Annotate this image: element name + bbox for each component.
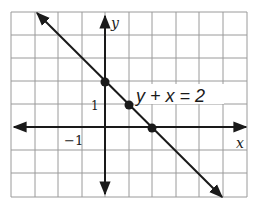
equation-label: y + x = 2 bbox=[134, 86, 205, 106]
tick-label-x-neg1: −1 bbox=[64, 133, 83, 148]
point-0-2 bbox=[101, 78, 110, 87]
y-axis-label: y bbox=[110, 15, 120, 31]
tick-label-y-1: 1 bbox=[91, 99, 99, 113]
point-2-0 bbox=[148, 124, 157, 133]
coordinate-graph: y + x = 2 y x 1 −1 bbox=[0, 0, 262, 210]
point-1-1 bbox=[125, 101, 134, 110]
x-axis-label: x bbox=[236, 135, 244, 151]
